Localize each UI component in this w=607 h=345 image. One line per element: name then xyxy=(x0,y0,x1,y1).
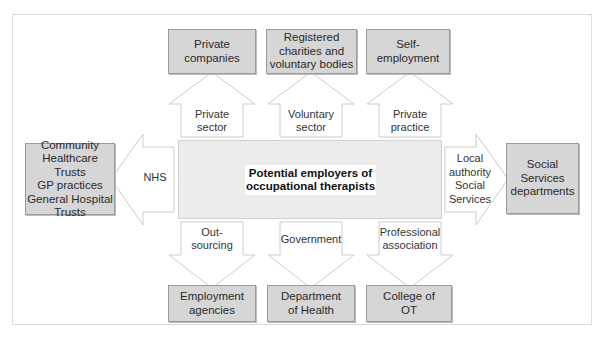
label-local-authority: Local authority Social Services xyxy=(445,150,495,208)
center-title-line1: Potential employers of xyxy=(249,167,372,179)
center-title: Potential employers ofoccupational thera… xyxy=(245,165,376,195)
box-private-companies: Privatecompanies xyxy=(168,29,256,74)
label-nhs: NHS xyxy=(135,170,175,186)
box-self-employment: Self-employment xyxy=(366,29,450,74)
label-voluntary-sector: Voluntarysector xyxy=(280,106,342,136)
box-registered-charities: Registeredcharities andvoluntary bodies xyxy=(266,29,357,74)
box-college-of-ot: College ofOT xyxy=(366,285,452,322)
label-private-practice: Privatepractice xyxy=(379,106,441,136)
label-private-sector: Privatesector xyxy=(181,106,243,136)
box-employment-agencies: Employmentagencies xyxy=(168,285,256,322)
box-department-of-health: Departmentof Health xyxy=(267,285,355,322)
center-title-line2: occupational therapists xyxy=(246,180,375,192)
box-nhs-trusts: Community Healthcare Trusts GP practices… xyxy=(25,143,115,215)
box-social-services-departments: Social Services departments xyxy=(506,143,579,214)
label-professional-association: Professionalassociation xyxy=(375,224,445,254)
label-government: Government xyxy=(278,232,344,248)
label-outsourcing: Out-sourcing xyxy=(181,224,243,254)
